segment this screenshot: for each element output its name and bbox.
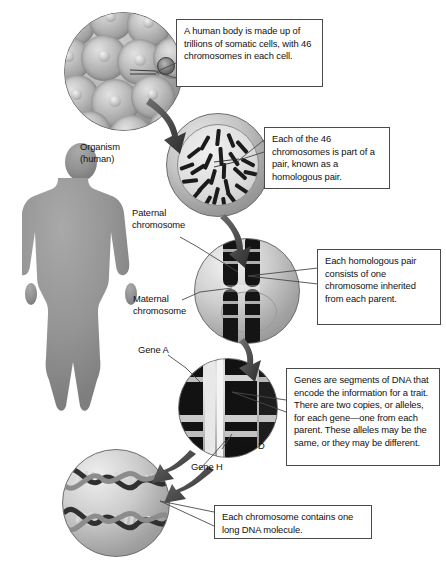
maternal-chromosome-label-line1: Maternal [133, 293, 169, 305]
human-silhouette-figure [22, 142, 140, 432]
nucleus-figure [166, 113, 270, 217]
organism-label-line1: Organism [80, 141, 120, 153]
maternal-chromosome-label-line2: chromosome [133, 305, 186, 317]
paternal-chromosome-label-line2: chromosome [132, 219, 185, 231]
diagram-canvas: Organism (human) Paternal chromosome Mat… [0, 0, 446, 568]
gene-a-label: Gene A [138, 344, 169, 356]
gene-h-label: Gene H [191, 461, 223, 473]
organism-label-line2: (human) [80, 153, 114, 165]
somatic-cell-cluster-figure [64, 12, 183, 131]
gene-d-label: Gene D [233, 440, 265, 452]
homologous-pair-figure [194, 238, 300, 344]
callout-somatic-cells: A human body is made up of trillions of … [176, 19, 323, 87]
callout-genes: Genes are segments of DNA that encode th… [286, 368, 440, 466]
paternal-chromosome-label-line1: Paternal [132, 207, 166, 219]
nuclear-envelope [177, 124, 259, 206]
dna-helix-svg [63, 450, 169, 556]
gene-a-band [178, 377, 203, 382]
dna-helix-figure [62, 449, 170, 557]
gene-d-band [225, 431, 257, 437]
callout-homologous-pair: Each homologous pair consists of one chr… [317, 249, 441, 325]
callout-dna: Each chromosome contains one long DNA mo… [214, 505, 372, 539]
callout-homologous-pair-intro: Each of the 46 chromosomes is part of a … [264, 127, 390, 189]
